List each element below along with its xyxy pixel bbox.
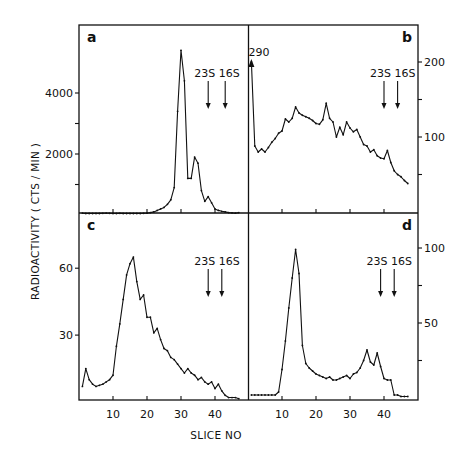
marker-labels: 23S 16S xyxy=(370,67,415,80)
data-point xyxy=(99,213,101,215)
data-point xyxy=(390,162,392,164)
data-point xyxy=(177,110,179,112)
data-point xyxy=(150,212,152,214)
data-point xyxy=(264,394,266,396)
arrow-down-icon xyxy=(392,291,397,297)
data-point xyxy=(160,339,162,341)
data-point xyxy=(105,212,107,214)
data-point xyxy=(257,394,259,396)
data-point xyxy=(184,80,186,82)
data-point xyxy=(315,373,317,375)
data-point xyxy=(112,374,114,376)
data-point xyxy=(390,379,392,381)
data-point xyxy=(180,368,182,370)
data-point xyxy=(393,170,395,172)
data-point xyxy=(254,145,256,147)
data-point xyxy=(126,213,128,215)
data-point xyxy=(82,385,84,387)
data-point xyxy=(228,212,230,214)
data-point xyxy=(332,121,334,123)
data-curve xyxy=(251,62,407,184)
data-point xyxy=(325,378,327,380)
data-point xyxy=(349,378,351,380)
data-point xyxy=(285,340,287,342)
arrow-down-icon xyxy=(382,103,387,109)
data-point xyxy=(197,379,199,381)
data-point xyxy=(257,151,259,153)
data-point xyxy=(312,120,314,122)
data-point xyxy=(370,361,372,363)
data-point xyxy=(359,367,361,369)
data-point xyxy=(214,388,216,390)
x-tick-label: 20 xyxy=(309,408,323,421)
data-point xyxy=(373,149,375,151)
data-point xyxy=(393,394,395,396)
arrow-down-icon xyxy=(395,103,400,109)
data-point xyxy=(400,176,402,178)
data-point xyxy=(160,208,162,210)
data-point xyxy=(295,249,297,251)
data-point xyxy=(238,398,240,400)
data-point xyxy=(136,281,138,283)
data-point xyxy=(211,381,213,383)
data-point xyxy=(383,378,385,380)
data-point xyxy=(291,117,293,119)
data-point xyxy=(221,210,223,212)
data-point xyxy=(109,212,111,214)
panel-a: a2000400023S 16S xyxy=(45,29,240,214)
data-point xyxy=(308,367,310,369)
data-point xyxy=(322,376,324,378)
arrow-down-icon xyxy=(206,291,211,297)
data-point xyxy=(221,390,223,392)
data-point xyxy=(163,348,165,350)
data-point xyxy=(264,151,266,153)
data-point xyxy=(235,397,237,399)
data-point xyxy=(211,202,213,204)
data-point xyxy=(305,116,307,118)
data-point xyxy=(359,136,361,138)
data-point xyxy=(99,384,101,386)
data-point xyxy=(235,212,237,214)
data-point xyxy=(119,212,121,214)
data-point xyxy=(363,360,365,362)
data-point xyxy=(139,213,141,215)
data-point xyxy=(353,131,355,133)
data-point xyxy=(85,368,87,370)
x-axis-title: SLICE NO xyxy=(190,429,241,441)
data-point xyxy=(261,148,263,150)
data-point xyxy=(150,316,152,318)
data-point xyxy=(170,199,172,201)
data-point xyxy=(190,178,192,180)
data-point xyxy=(404,180,406,182)
data-point xyxy=(271,394,273,396)
figure-canvas: a2000400023S 16Sb10020029023S 16Sc102030… xyxy=(0,0,461,459)
data-point xyxy=(268,394,270,396)
data-point xyxy=(376,155,378,157)
data-point xyxy=(136,213,138,215)
data-point xyxy=(366,349,368,351)
y-axis-title: RADIOACTIVITY ( CTS / MIN ) xyxy=(29,143,41,300)
data-point xyxy=(329,376,331,378)
data-point xyxy=(353,373,355,375)
data-point xyxy=(184,372,186,374)
data-point xyxy=(207,196,209,198)
data-point xyxy=(346,121,348,123)
y-tick-label: 200 xyxy=(424,56,445,69)
data-point xyxy=(231,212,233,214)
data-point xyxy=(288,307,290,309)
data-point xyxy=(224,211,226,213)
data-point xyxy=(218,210,220,212)
data-point xyxy=(336,136,338,138)
x-tick-label: 30 xyxy=(343,408,357,421)
data-point xyxy=(102,383,104,385)
data-point xyxy=(146,316,148,318)
data-point xyxy=(133,213,135,215)
x-tick-label: 40 xyxy=(377,408,391,421)
panel-label: b xyxy=(402,29,412,45)
data-point xyxy=(356,372,358,374)
marker-labels: 23S 16S xyxy=(367,255,412,268)
data-point xyxy=(281,130,283,132)
y-tick-label: 100 xyxy=(424,131,445,144)
data-point xyxy=(88,213,90,215)
arrow-down-icon xyxy=(223,103,228,109)
